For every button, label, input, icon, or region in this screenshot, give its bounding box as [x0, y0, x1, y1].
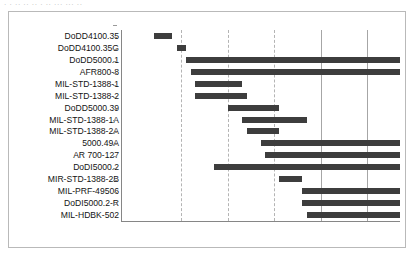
bar-dodd4100-35g: [177, 45, 186, 51]
bar-ar-700-127: [265, 152, 400, 158]
bar-afr800-8: [191, 69, 400, 75]
category-tick: [113, 25, 117, 26]
category-axis-labels: DoDD4100.35DoDD4100.35GDoDD5000.1AFR800-…: [19, 30, 119, 221]
category-tick: [113, 97, 117, 98]
category-label: DoDD4100.35: [19, 31, 119, 41]
category-tick: [113, 109, 117, 110]
category-tick: [113, 204, 117, 205]
category-label: MIL-STD-1388-2: [19, 91, 119, 101]
bar-5000-49a: [261, 140, 401, 146]
category-tick: [113, 120, 117, 121]
plot-area: [121, 30, 400, 221]
bar-mil-hdbk-502: [307, 212, 400, 218]
bar-dodd4100-35: [154, 33, 173, 39]
chart-screenshot: · · ·· ·· ·· · ·· ··· ··· ·· DoDD4100.35…: [0, 0, 413, 257]
bar-mir-std-1388-2b: [279, 176, 302, 182]
chart-frame: DoDD4100.35DoDD4100.35GDoDD5000.1AFR800-…: [8, 11, 406, 248]
category-label: MIL-PRF-49506: [19, 186, 119, 196]
bar-dodd5000-39: [228, 105, 279, 111]
clipped-header-text: · · ·· ·· ·· · ·· ··· ··· ··: [4, 0, 184, 9]
x-axis-line: [121, 221, 400, 222]
category-tick: [113, 85, 117, 86]
category-label: AR 700-127: [19, 150, 119, 160]
category-tick: [113, 192, 117, 193]
category-label: 5000.49A: [19, 138, 119, 148]
bar-mil-prf-49506: [302, 188, 400, 194]
bar-dodd5000-1: [186, 57, 400, 63]
category-label: DoDI5000.2: [19, 162, 119, 172]
category-label: AFR800-8: [19, 67, 119, 77]
category-label: DoDD5000.1: [19, 55, 119, 65]
category-label: DoDI5000.2-R: [19, 198, 119, 208]
category-tick: [113, 132, 117, 133]
category-label: MIL-STD-1388-1A: [19, 115, 119, 125]
bar-mil-std-1388-2a: [247, 128, 280, 134]
category-tick: [113, 37, 117, 38]
category-tick: [113, 144, 117, 145]
bar-dodi5000-2-r: [302, 200, 400, 206]
category-label: MIR-STD-1388-2B: [19, 174, 119, 184]
category-label: DoDD4100.35G: [19, 43, 119, 53]
gridline-dashed-1970: [181, 30, 182, 221]
category-tick: [113, 156, 117, 157]
category-label: MIL-HDBK-502: [19, 210, 119, 220]
category-tick: [113, 61, 117, 62]
category-label: DoDD5000.39: [19, 103, 119, 113]
category-label: MIL-STD-1388-2A: [19, 126, 119, 136]
bar-dodi5000-2: [214, 164, 400, 170]
category-tick: [113, 168, 117, 169]
category-tick: [113, 180, 117, 181]
bar-mil-std-1388-2: [195, 93, 246, 99]
category-label: MIL-STD-1388-1: [19, 79, 119, 89]
bar-mil-std-1388-1: [195, 81, 242, 87]
category-tick: [113, 73, 117, 74]
bar-mil-std-1388-1a: [242, 117, 307, 123]
category-tick: [113, 49, 117, 50]
